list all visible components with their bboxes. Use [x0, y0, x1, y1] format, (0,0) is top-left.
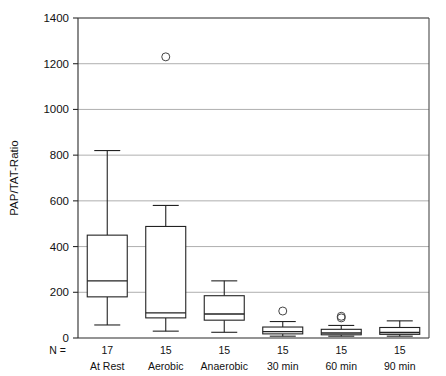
x-category-label-2: Aerobic	[148, 360, 184, 372]
n-row-prefix: N =	[49, 344, 66, 356]
y-tick-label: 200	[50, 286, 69, 298]
y-tick-label: 600	[50, 195, 69, 207]
n-count-2: 15	[160, 344, 172, 356]
box-iqr	[380, 327, 420, 334]
n-count-4: 15	[277, 344, 289, 356]
box-iqr	[146, 226, 186, 317]
boxplot-figure: PAP/TAT-Ratio 0200400600800100012001400 …	[0, 0, 446, 376]
y-tick-label: 0	[63, 332, 69, 344]
y-tick-label: 1000	[43, 103, 69, 115]
x-category-label-5: 60 min	[325, 360, 357, 372]
n-count-5: 15	[335, 344, 347, 356]
n-count-6: 15	[394, 344, 406, 356]
y-tick-label: 800	[50, 149, 69, 161]
y-axis-title: PAP/TAT-Ratio	[8, 140, 20, 215]
y-tick-label: 1400	[43, 12, 69, 24]
y-tick-label: 400	[50, 241, 69, 253]
box-iqr	[87, 235, 127, 297]
y-tick-label: 1200	[43, 58, 69, 70]
boxplot-canvas: PAP/TAT-Ratio 0200400600800100012001400 …	[0, 0, 446, 376]
n-count-3: 15	[218, 344, 230, 356]
x-category-label-1: At Rest	[90, 360, 125, 372]
box-iqr	[204, 296, 244, 320]
n-count-1: 17	[101, 344, 113, 356]
x-category-label-6: 90 min	[384, 360, 416, 372]
x-category-label-4: 30 min	[267, 360, 299, 372]
box-iqr	[263, 327, 303, 334]
x-category-label-3: Anaerobic	[201, 360, 248, 372]
box-iqr	[321, 329, 361, 334]
